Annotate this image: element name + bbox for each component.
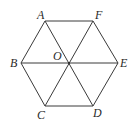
center-point-O: [68, 62, 70, 64]
hexagon-diagram: A F B E O C D: [0, 0, 136, 129]
hexagon-svg: A F B E O C D: [0, 0, 136, 129]
label-D: D: [92, 106, 102, 120]
label-E: E: [119, 56, 128, 70]
label-C: C: [37, 108, 46, 122]
label-O: O: [53, 49, 62, 63]
label-F: F: [94, 8, 103, 22]
label-B: B: [10, 56, 18, 70]
label-A: A: [36, 8, 45, 22]
